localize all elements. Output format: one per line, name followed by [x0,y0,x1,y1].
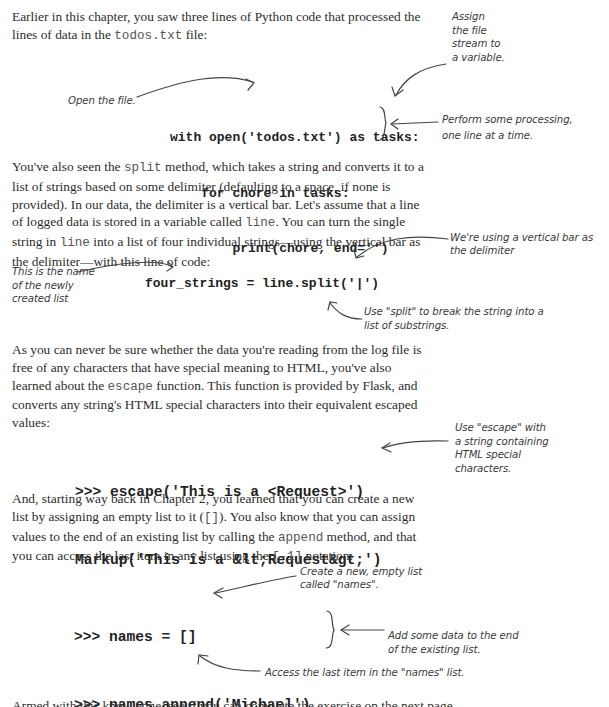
text: Armed with this knowledge, see if you ca… [12,698,456,707]
paragraph-intro: Earlier in this chapter, you saw three l… [12,8,432,46]
annotation-open-file: Open the file. [68,94,136,107]
text: You've also seen the [12,159,124,174]
arrow-use-split-head [328,302,337,310]
arrow-add-data-head [341,625,349,635]
arrow-use-escape-head [382,443,391,452]
text: file: [182,27,207,42]
inline-code-empty-list: [] [204,511,219,525]
paragraph-escape: As you can never be sure whether the dat… [12,341,432,432]
annotation-use-split: Use "split" to break the string into a l… [364,305,544,333]
arrow-open-file-head [246,79,254,90]
arrow-use-split [330,303,362,319]
annotation-vertical-bar: We're using a vertical bar as the delimi… [450,231,593,257]
code-line: >>> names = [] [74,626,310,649]
paragraph-lists: And, starting way back in Chapter 2, you… [12,490,432,567]
annotation-access-last: Access the last item in the "names" list… [265,666,465,679]
code-split-line: four_strings = line.split('|') [145,275,379,294]
annotation-create-list: Create a new, empty list called "names". [300,565,422,591]
inline-code-escape: escape [108,380,153,394]
inline-code-filename: todos.txt [114,29,182,43]
code-block-names: >>> names = [] >>> names.append('Michael… [74,581,310,707]
annotation-assign-stream: Assign the file stream to a variable. [452,10,505,64]
text: notation: [302,548,353,563]
brace-append [326,611,334,648]
annotation-add-data: Add some data to the end of the existing… [388,629,519,657]
inline-code-split: split [124,161,162,175]
inline-code-index: [-1] [272,550,302,564]
paragraph-split: You've also seen the split method, which… [12,158,432,271]
inline-code-line: line [60,236,90,250]
annotation-perform-processing: Perform some processing, one line at a t… [442,112,573,144]
annotation-name-of-list: This is the name of the newly created li… [12,265,95,306]
inline-code-append: append [278,531,323,545]
code-line: with open('todos.txt') as tasks: [170,129,420,148]
paragraph-conclusion: Armed with this knowledge, see if you ca… [12,697,572,707]
inline-code-line: line [245,216,275,230]
annotation-use-escape: Use "escape" with a string containing HT… [455,421,549,475]
text: Earlier in this chapter, you saw three l… [12,9,421,42]
arrow-use-escape [383,441,448,448]
arrow-assign-stream [396,64,446,95]
